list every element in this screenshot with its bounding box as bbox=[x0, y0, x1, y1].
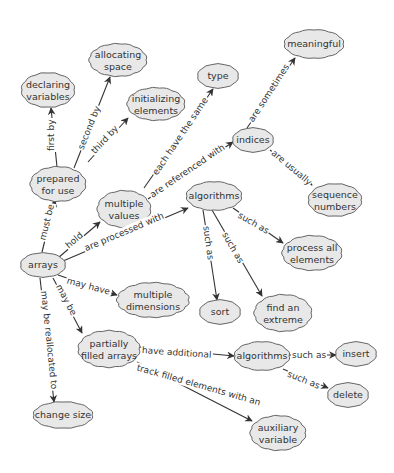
cloud-node-sequence bbox=[308, 184, 361, 217]
cloud-node-sort bbox=[200, 300, 241, 325]
cloud-node-initializing bbox=[127, 87, 185, 120]
edges bbox=[40, 58, 336, 421]
cloud-node-partially bbox=[78, 330, 140, 368]
cloud-node-meaningful bbox=[284, 30, 343, 59]
cloud-node-extreme bbox=[254, 294, 312, 331]
link-label: such as bbox=[291, 350, 327, 360]
cloud-node-arrays bbox=[21, 253, 66, 278]
cloud-node-insert bbox=[336, 342, 377, 367]
link-label: first by bbox=[46, 119, 56, 153]
cloud-node-prepared bbox=[30, 166, 86, 201]
cloud-node-indices bbox=[233, 128, 274, 153]
link-lines bbox=[0, 0, 394, 473]
cloud-node-process_all bbox=[282, 235, 342, 270]
cloud-node-multiple_dims bbox=[116, 282, 189, 318]
concept-map: first bysecond bythird byeach have the s… bbox=[0, 0, 394, 473]
cloud-node-allocating bbox=[89, 43, 147, 76]
cloud-node-type bbox=[198, 64, 239, 89]
cloud-node-auxiliary bbox=[250, 415, 306, 450]
cloud-node-algorithms2 bbox=[234, 342, 289, 371]
cloud-node-change_size bbox=[33, 402, 92, 429]
cloud-node-declaring bbox=[21, 73, 74, 108]
cloud-node-algorithms1 bbox=[186, 182, 241, 211]
cloud-node-delete bbox=[328, 383, 369, 408]
